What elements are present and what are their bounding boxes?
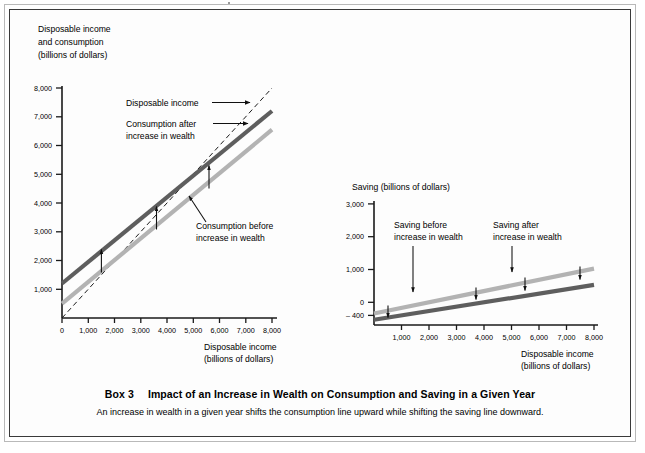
consumption-y-axis-label-line-1: Disposable income [38, 24, 111, 34]
consumption-xtick-7000: 7,000 [237, 326, 255, 335]
consumption-x-axis-label-line-1: Disposable income [204, 342, 277, 352]
consumption-xtick-1000: 1,000 [79, 326, 97, 335]
annotation-saving-before-line-1: Saving before [394, 220, 447, 230]
saving-ytick-minus400: – 400 [346, 311, 364, 320]
saving-ytick-1000: 1,000 [346, 265, 364, 274]
saving-ytick-2000: 2,000 [346, 232, 364, 241]
consumption-ytick-4000: 4,000 [34, 199, 52, 208]
saving-x-axis-label-line-1: Disposable income [521, 349, 594, 359]
annotation-disposable-income-label: Disposable income [126, 98, 199, 108]
annotation-consumption-after-line-2: increase in wealth [126, 131, 195, 141]
saving-xtick-3000: 3,000 [448, 333, 466, 342]
saving-y-axis-label: Saving (billions of dollars) [352, 182, 450, 192]
annotation-saving-before-line-2: increase in wealth [394, 232, 463, 242]
consumption-ytick-6000: 6,000 [34, 141, 52, 150]
saving-x-axis-label-line-2: (billions of dollars) [521, 361, 590, 371]
saving-xtick-4000: 4,000 [475, 333, 493, 342]
annotation-consumption-before-line-2: increase in wealth [196, 233, 265, 243]
annotation-consumption-after-line-1: Consumption after [126, 119, 196, 129]
annotation-saving-after-line-2: increase in wealth [493, 232, 562, 242]
caption-subtitle: An increase in wealth in a given year sh… [20, 407, 620, 417]
consumption-y-axis-label-line-2: and consumption [38, 37, 104, 47]
consumption-y-axis-label-line-3: (billions of dollars) [38, 50, 107, 60]
saving-xtick-8000: 8,000 [585, 333, 603, 342]
consumption-xtick-0: 0 [60, 326, 64, 335]
consumption-x-axis-label-line-2: (billions of dollars) [204, 354, 273, 364]
consumption-xtick-2000: 2,000 [106, 326, 124, 335]
saving-xtick-6000: 6,000 [530, 333, 548, 342]
consumption-xtick-3000: 3,000 [132, 326, 150, 335]
consumption-ytick-5000: 5,000 [34, 170, 52, 179]
consumption-y-ticks: 8,000 7,000 6,000 5,000 4,000 3,000 2,00… [34, 84, 62, 294]
consumption-ytick-3000: 3,000 [34, 227, 52, 236]
consumption-xtick-4000: 4,000 [158, 326, 176, 335]
saving-xtick-7000: 7,000 [558, 333, 576, 342]
consumption-chart: Disposable income and consumption (billi… [34, 24, 281, 364]
consumption-xtick-5000: 5,000 [184, 326, 202, 335]
annotation-saving-after-line-1: Saving after [493, 220, 539, 230]
saving-ytick-3000: 3,000 [346, 200, 364, 209]
consumption-ytick-8000: 8,000 [34, 84, 52, 93]
consumption-ytick-2000: 2,000 [34, 256, 52, 265]
consumption-x-ticks: 0 1,000 2,000 3,000 4,000 5,000 6,000 7,… [60, 318, 281, 335]
saving-chart: Saving (billions of dollars) 3,000 2,000… [346, 182, 603, 371]
saving-xtick-2000: 2,000 [420, 333, 438, 342]
figure-root: Disposable income and consumption (billi… [0, 0, 645, 453]
charts-canvas: Disposable income and consumption (billi… [0, 0, 645, 453]
charts-svg: Disposable income and consumption (billi… [0, 0, 645, 453]
consumption-ytick-1000: 1,000 [34, 285, 52, 294]
saving-x-ticks: 1,000 2,000 3,000 4,000 5,000 6,000 7,00… [393, 325, 604, 342]
series-consumption-before-line [62, 130, 272, 304]
annotation-consumption-before-line-1: Consumption before [196, 221, 274, 231]
annotation-consumption-before-leader [189, 196, 206, 222]
figure-caption: Box 3Impact of an Increase in Wealth on … [20, 388, 620, 417]
caption-title-row: Box 3Impact of an Increase in Wealth on … [20, 388, 620, 400]
saving-xtick-1000: 1,000 [393, 333, 411, 342]
caption-box-number: Box 3 [105, 388, 134, 400]
saving-xtick-5000: 5,000 [503, 333, 521, 342]
consumption-ytick-7000: 7,000 [34, 112, 52, 121]
consumption-xtick-6000: 6,000 [211, 326, 229, 335]
saving-ytick-0: 0 [360, 298, 364, 307]
caption-title-text: Impact of an Increase in Wealth on Consu… [148, 388, 535, 400]
consumption-xtick-8000: 8,000 [263, 326, 281, 335]
saving-y-ticks: 3,000 2,000 1,000 0 – 400 [346, 200, 374, 321]
